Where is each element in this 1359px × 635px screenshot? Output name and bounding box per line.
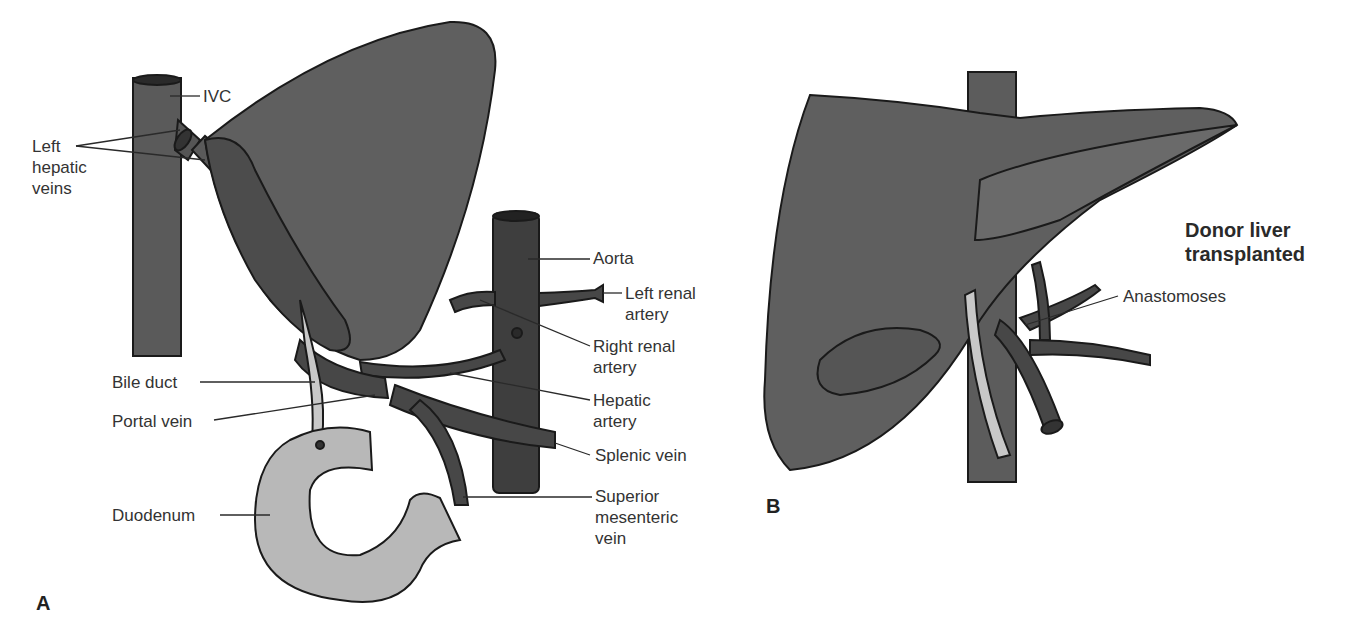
panel-a-drawing (133, 22, 603, 602)
label-portal-vein: Portal vein (112, 411, 192, 432)
label-splenic-vein: Splenic vein (595, 445, 687, 466)
panel-b-title: Donor liver transplanted (1185, 218, 1305, 266)
panel-b-drawing (764, 72, 1237, 482)
label-left-hepatic-veins: Left hepatic veins (32, 136, 87, 199)
label-bile-duct: Bile duct (112, 372, 177, 393)
panel-b-letter: B (766, 495, 780, 518)
label-anastomoses: Anastomoses (1123, 286, 1226, 307)
label-ivc: IVC (203, 86, 231, 107)
label-aorta: Aorta (593, 248, 634, 269)
label-hepatic-artery: Hepatic artery (593, 390, 651, 432)
panel-a-letter: A (36, 592, 50, 615)
label-right-renal-artery: Right renal artery (593, 336, 675, 378)
label-left-renal-artery: Left renal artery (625, 283, 696, 325)
ivc-vessel (133, 78, 181, 356)
label-duodenum: Duodenum (112, 505, 195, 526)
label-superior-mesenteric-vein: Superior mesenteric vein (595, 486, 678, 549)
duodenum-shape (255, 428, 460, 603)
